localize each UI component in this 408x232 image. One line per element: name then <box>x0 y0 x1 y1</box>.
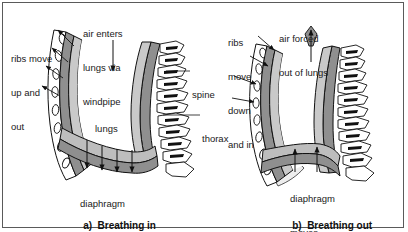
panel-b-caption-index: b) <box>292 220 301 231</box>
panel-a-caption: a) Breathing in <box>72 209 156 232</box>
panel-a-caption-text: Breathing in <box>98 220 156 231</box>
ribs-move-up-out-label: ribs move up and out <box>11 30 52 155</box>
panel-b-caption-text: Breathing out <box>307 220 372 231</box>
air-forced-out-label: air forced out of lungs <box>279 10 328 101</box>
panel-b-caption: b) Breathing out <box>281 209 372 232</box>
ribs-move-down-in-label: ribs move down and in <box>228 14 254 174</box>
breathing-diagram-figure: ribs move up and out air enters lungs vi… <box>0 0 408 232</box>
thorax-label: thorax <box>202 110 228 167</box>
lungs-label: lungs <box>95 100 118 157</box>
panel-a-caption-index: a) <box>83 220 92 231</box>
